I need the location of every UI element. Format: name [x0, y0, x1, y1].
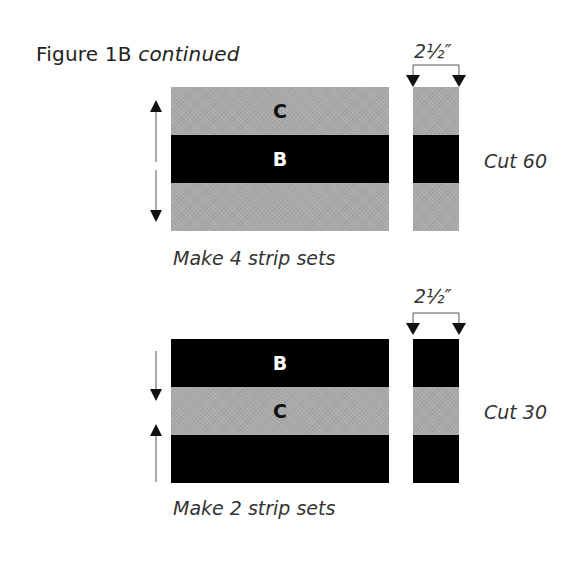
strip-band-c: C — [171, 87, 389, 135]
band-label: C — [273, 400, 287, 422]
strip-set-caption: Make 4 strip sets — [173, 247, 335, 269]
width-measurement-label: 2½″ — [414, 285, 452, 307]
piece-band-black — [413, 135, 459, 183]
figure-title-main: Figure 1B — [36, 42, 132, 66]
press-arrow-up-icon — [150, 424, 162, 482]
strip-band-b-bottom — [171, 435, 389, 483]
figure-title: Figure 1B continued — [36, 42, 240, 66]
strip-band-c-bottom — [171, 183, 389, 231]
piece-band-gray — [413, 183, 459, 231]
piece-band-black — [413, 339, 459, 387]
cut-count-label: Cut 30 — [484, 401, 547, 423]
figure-title-suffix: continued — [138, 42, 239, 66]
cut-count-label: Cut 60 — [484, 150, 547, 172]
piece-band-gray — [413, 387, 459, 435]
press-arrow-down-icon — [150, 351, 162, 401]
cut-piece-2 — [413, 339, 459, 483]
strip-band-c: C — [171, 387, 389, 435]
width-bracket-icon — [406, 311, 466, 336]
press-arrow-up-icon — [150, 100, 162, 162]
strip-set-1: C B — [171, 87, 389, 231]
cut-piece-1 — [413, 87, 459, 231]
strip-set-2: B C — [171, 339, 389, 483]
piece-band-black — [413, 435, 459, 483]
strip-band-b: B — [171, 135, 389, 183]
width-bracket-icon — [406, 63, 466, 88]
strip-set-caption: Make 2 strip sets — [173, 497, 335, 519]
band-label: C — [273, 100, 287, 122]
strip-band-b: B — [171, 339, 389, 387]
piece-band-gray — [413, 87, 459, 135]
band-label: B — [273, 352, 287, 374]
press-arrow-down-icon — [150, 170, 162, 222]
band-label: B — [273, 148, 287, 170]
width-measurement-label: 2½″ — [414, 40, 452, 62]
